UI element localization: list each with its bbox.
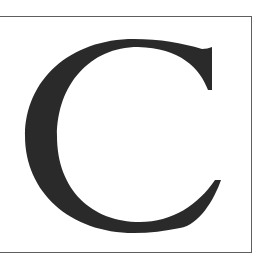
letter-c-shape: [25, 39, 221, 233]
letter-c-glyph: [0, 0, 256, 267]
